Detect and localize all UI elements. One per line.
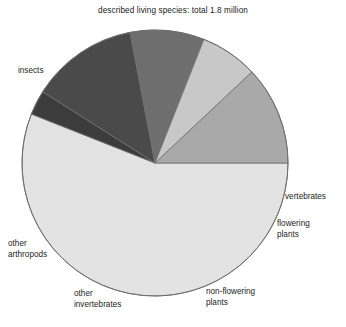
- slice-label-other-arthropods: other arthropods: [8, 239, 47, 260]
- pie-chart-figure: described living species: total 1.8 mill…: [0, 0, 346, 327]
- pie-chart-svg: [0, 0, 346, 327]
- slice-label-vertebrates: vertebrates: [285, 192, 326, 203]
- slice-label-non-flowering-plants: non-flowering plants: [206, 287, 255, 308]
- slice-label-other-invertebrates: other invertebrates: [74, 289, 121, 310]
- pie-slice-group: [22, 30, 288, 296]
- slice-label-flowering-plants: flowering plants: [277, 219, 310, 240]
- slice-label-insects: insects: [18, 66, 43, 77]
